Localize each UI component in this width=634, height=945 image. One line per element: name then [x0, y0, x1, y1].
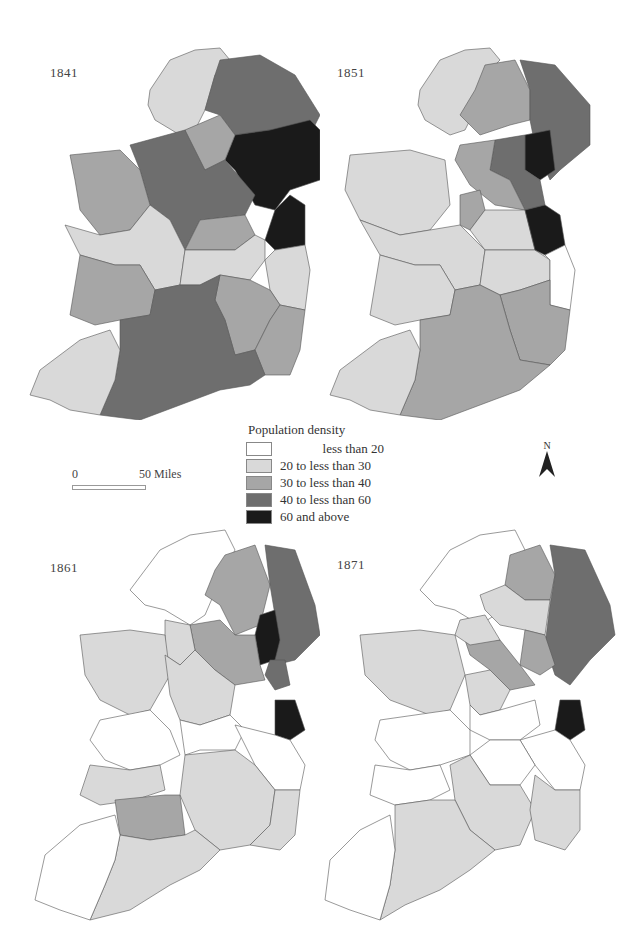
- year-label-1871: 1871: [337, 557, 365, 573]
- year-label-1851: 1851: [337, 65, 365, 81]
- ireland-map-1871: [320, 525, 620, 935]
- scale-bar: 0 50 Miles: [72, 467, 182, 490]
- map-1851: 1851: [320, 20, 620, 420]
- legend-swatch: [246, 459, 272, 473]
- legend-item-40-to-60: 40 to less than 60: [246, 491, 406, 508]
- ireland-map-1861: [20, 525, 320, 935]
- scale-start-label: 0: [72, 467, 78, 482]
- north-label: N: [537, 440, 557, 451]
- year-label-1841: 1841: [50, 65, 78, 81]
- legend-label: 60 and above: [280, 509, 349, 525]
- legend: Population density less than 20 20 to le…: [246, 422, 406, 525]
- map-1861: 1861: [20, 525, 320, 935]
- scale-end-label: 50 Miles: [139, 467, 181, 482]
- north-arrow-icon: [537, 451, 557, 477]
- scale-bar-graphic: [72, 485, 146, 490]
- map-1841: 1841: [20, 20, 320, 420]
- year-label-1861: 1861: [50, 560, 78, 576]
- legend-item-30-to-40: 30 to less than 40: [246, 474, 406, 491]
- legend-swatch: [246, 493, 272, 507]
- legend-title: Population density: [248, 422, 406, 438]
- legend-swatch: [246, 510, 272, 524]
- legend-item-20-to-30: 20 to less than 30: [246, 457, 406, 474]
- legend-label: 20 to less than 30: [280, 458, 371, 474]
- legend-label: 30 to less than 40: [280, 475, 371, 491]
- legend-swatch: [246, 476, 272, 490]
- map-1871: 1871: [320, 525, 620, 935]
- legend-item-less-than-20: less than 20: [246, 440, 406, 457]
- ireland-map-1851: [320, 20, 620, 420]
- north-arrow: N: [537, 440, 557, 481]
- legend-label: less than 20: [323, 441, 384, 457]
- legend-label: 40 to less than 60: [280, 492, 371, 508]
- legend-swatch: [246, 442, 272, 456]
- legend-item-60-above: 60 and above: [246, 508, 406, 525]
